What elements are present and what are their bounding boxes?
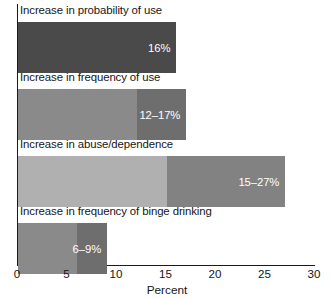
x-tick-20: 20: [209, 267, 222, 280]
bar-label-1: Increase in probability of use: [20, 4, 162, 16]
bar-3-value-label: 15–27%: [238, 176, 279, 188]
x-tick-5: 5: [63, 267, 69, 280]
bar-1[interactable]: 16%: [18, 22, 176, 73]
x-tick-0: 0: [14, 267, 20, 280]
x-tick-30: 30: [308, 267, 321, 280]
x-axis-title: Percent: [0, 283, 334, 297]
plot-area: Increase in probability of use 16% Incre…: [17, 0, 314, 266]
bar-chart: Increase in probability of use 16% Incre…: [0, 0, 334, 300]
bar-label-4: Increase in frequency of binge drinking: [20, 205, 212, 217]
bar-3[interactable]: 15–27%: [18, 156, 285, 207]
x-tick-10: 10: [110, 267, 123, 280]
bar-label-2: Increase in frequency of use: [20, 71, 160, 83]
bar-4-value-label: 6–9%: [73, 243, 102, 255]
x-tick-25: 25: [258, 267, 271, 280]
x-tick-15: 15: [159, 267, 172, 280]
bar-3-segment-base: [18, 156, 167, 207]
bar-2-value-label: 12–17%: [139, 109, 180, 121]
bar-2-segment-base: [18, 89, 137, 140]
bar-1-value-label: 16%: [148, 42, 170, 54]
bar-2[interactable]: 12–17%: [18, 89, 186, 140]
bar-label-3: Increase in abuse/dependence: [20, 138, 173, 150]
